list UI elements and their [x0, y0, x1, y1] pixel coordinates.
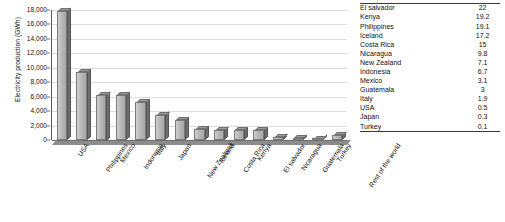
bar-side-face: [146, 98, 150, 140]
table-cell-country: Italy: [360, 95, 465, 104]
bar: [76, 72, 86, 140]
bar: [273, 137, 283, 140]
table-row: Japan0.3: [360, 113, 500, 122]
data-table: El salvador22Kenya19.2Philippines19.1Ice…: [360, 3, 500, 132]
table-cell-value: 3: [465, 86, 500, 95]
x-axis-tick-label: USA: [76, 142, 90, 158]
table-row: USA0.5: [360, 104, 500, 113]
y-axis-tick-label: 16,000: [27, 21, 47, 28]
table-row: Italy1.9: [360, 95, 500, 104]
table-cell-value: 0.5: [465, 104, 500, 113]
bar: [234, 130, 244, 140]
table-cell-value: 17.2: [465, 31, 500, 40]
bar-front-face: [135, 102, 145, 140]
table-row: Philippines19.1: [360, 22, 500, 31]
bar-front-face: [96, 95, 106, 141]
table-row: Indonesia6.7: [360, 68, 500, 77]
bar: [214, 130, 224, 140]
bar-front-face: [214, 130, 224, 140]
gridline: [52, 39, 347, 40]
bar: [253, 130, 263, 140]
gridline: [52, 10, 347, 11]
y-axis-tick-mark: [47, 53, 50, 54]
table-row: Guatemala3: [360, 86, 500, 95]
bar-front-face: [194, 129, 204, 140]
bar-side-face: [165, 111, 169, 140]
table-cell-value: 0.1: [465, 122, 500, 132]
table-row: Kenya19.2: [360, 13, 500, 22]
bar: [57, 11, 67, 140]
table-cell-country: Philippines: [360, 22, 465, 31]
bar: [96, 95, 106, 141]
x-axis-labels: USAPhilippinesMexicoIndonesiaItalyJapanN…: [51, 142, 351, 200]
table-row: El salvador22: [360, 4, 500, 14]
table-cell-value: 0.3: [465, 113, 500, 122]
table-cell-value: 6.7: [465, 68, 500, 77]
table-cell-value: 15: [465, 40, 500, 49]
bar: [312, 139, 322, 141]
bar: [116, 95, 126, 140]
table-cell-country: New Zealand: [360, 59, 465, 68]
bar: [135, 102, 145, 140]
table-cell-country: Guatemala: [360, 86, 465, 95]
bar-front-face: [116, 95, 126, 140]
bar-chart: Electricity production (GWh) 18,00016,00…: [0, 0, 352, 200]
data-table-block: El salvador22Kenya19.2Philippines19.1Ice…: [360, 3, 500, 132]
bar-side-face: [126, 92, 130, 140]
table-cell-country: Indonesia: [360, 68, 465, 77]
bar-front-face: [57, 11, 67, 140]
table-row: Mexico3.1: [360, 77, 500, 86]
table-cell-value: 9.8: [465, 49, 500, 58]
y-axis-tick-label: 18,000: [27, 7, 47, 14]
y-axis-tick-label: 4,000: [30, 108, 47, 115]
table-cell-country: Mexico: [360, 77, 465, 86]
y-axis-tick-label: 14,000: [27, 36, 47, 43]
y-axis-tick-mark: [47, 24, 50, 25]
y-axis-tick-mark: [47, 111, 50, 112]
y-axis-tick-mark: [47, 67, 50, 68]
y-axis-tick-mark: [47, 125, 50, 126]
y-axis-tick-mark: [47, 38, 50, 39]
x-axis-tick-label: Japan: [176, 142, 192, 161]
table-cell-country: USA: [360, 104, 465, 113]
y-axis-tick-mark: [47, 10, 50, 11]
bar: [293, 138, 303, 140]
table-cell-value: 19.1: [465, 22, 500, 31]
bar-side-face: [67, 7, 71, 140]
gridline: [52, 24, 347, 25]
bar: [175, 120, 185, 140]
table-cell-country: Japan: [360, 113, 465, 122]
y-axis-tick-mark: [47, 96, 50, 97]
table-cell-country: Kenya: [360, 13, 465, 22]
table-body: El salvador22Kenya19.2Philippines19.1Ice…: [360, 4, 500, 132]
y-axis-tick-label: 12,000: [27, 50, 47, 57]
y-axis-ticks: 18,00016,00014,00012,00010,0008,0006,000…: [12, 6, 50, 142]
bar-front-face: [253, 130, 263, 140]
bar-front-face: [234, 130, 244, 140]
bar-side-face: [87, 69, 91, 140]
bar-front-face: [273, 137, 283, 140]
bar-front-face: [332, 135, 342, 140]
table-cell-value: 1.9: [465, 95, 500, 104]
bar-front-face: [76, 72, 86, 140]
bar-front-face: [293, 138, 303, 140]
gridline: [52, 82, 347, 83]
table-cell-value: 3.1: [465, 77, 500, 86]
figure: Electricity production (GWh) 18,00016,00…: [0, 0, 505, 222]
table-cell-country: Iceland: [360, 31, 465, 40]
bar: [194, 129, 204, 140]
x-axis-tick-label: Rest of the world: [368, 142, 402, 188]
table-cell-country: El salvador: [360, 4, 465, 14]
bar-front-face: [175, 120, 185, 140]
bar-side-face: [106, 91, 110, 140]
table-cell-country: Nicaragua: [360, 49, 465, 58]
y-axis-tick-label: 6,000: [30, 93, 47, 100]
y-axis-tick-label: 2,000: [30, 122, 47, 129]
plot-area: [51, 10, 347, 140]
gridline: [52, 68, 347, 69]
table-cell-country: Turkey: [360, 122, 465, 132]
table-row: Iceland17.2: [360, 31, 500, 40]
table-cell-value: 22: [465, 4, 500, 14]
y-axis-tick-label: 8,000: [30, 79, 47, 86]
table-row: Nicaragua9.8: [360, 49, 500, 58]
